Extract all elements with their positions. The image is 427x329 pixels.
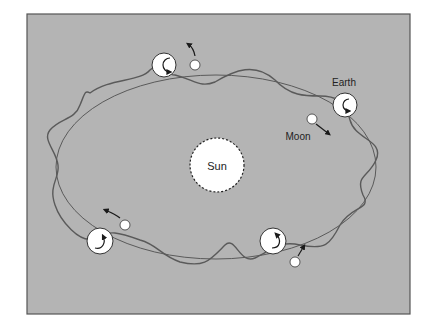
earth-icon — [333, 93, 357, 117]
earth-bottom-right — [260, 228, 286, 254]
earth-icon — [87, 228, 113, 254]
earth-icon — [152, 53, 176, 77]
earth-icon — [260, 228, 286, 254]
earth-moon-orbit-diagram: Sun Earth Moon — [0, 0, 427, 329]
moon-top — [190, 60, 200, 70]
sun: Sun — [190, 138, 244, 192]
moon-label: Moon — [285, 131, 310, 142]
earth-label: Earth — [332, 77, 356, 88]
moon-bottom-right — [290, 257, 300, 267]
earth-top — [152, 53, 176, 77]
moon-bottom-left — [120, 220, 130, 230]
earth-right — [333, 93, 357, 117]
moon-right — [307, 114, 317, 124]
earth-bottom-left — [87, 228, 113, 254]
sun-label: Sun — [207, 160, 227, 172]
